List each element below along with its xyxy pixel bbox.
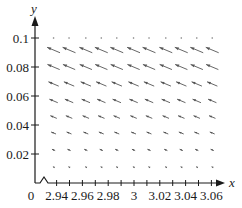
field-arrowhead — [160, 64, 164, 67]
x-tick-label: 2.98 — [97, 188, 120, 203]
field-arrowhead — [85, 167, 87, 168]
field-arrowhead — [211, 149, 213, 151]
field-arrowhead — [63, 47, 67, 50]
axes: x y 0 — [28, 1, 235, 203]
field-arrowhead — [129, 99, 133, 101]
field-arrowhead — [147, 132, 150, 134]
origin-label: 0 — [28, 188, 35, 203]
field-arrowhead — [208, 99, 212, 101]
x-axis-label: x — [228, 175, 235, 190]
field-arrowhead — [84, 149, 86, 151]
x-axis — [35, 177, 218, 183]
field-arrowhead — [80, 64, 84, 67]
field-arrowhead — [79, 47, 83, 50]
field-arrowhead — [83, 132, 86, 134]
y-axis-arrowhead — [32, 16, 39, 26]
field-arrowhead — [67, 132, 70, 134]
x-axis-arrowhead — [216, 180, 225, 187]
field-arrowhead — [147, 149, 149, 151]
field-point — [196, 37, 198, 39]
field-arrowhead — [67, 149, 69, 151]
field-arrowhead — [110, 47, 114, 50]
field-arrowhead — [98, 116, 101, 118]
field-arrowhead — [47, 47, 51, 50]
y-tick-label: 0.08 — [6, 60, 29, 75]
field-arrowhead — [143, 64, 147, 67]
field-arrowhead — [101, 167, 103, 168]
field-arrowhead — [132, 149, 134, 151]
field-arrowhead — [49, 99, 53, 101]
field-point — [116, 37, 118, 39]
field-arrowhead — [130, 116, 133, 118]
field-arrowhead — [47, 64, 51, 67]
field-arrowhead — [95, 47, 99, 50]
field-point — [53, 37, 55, 39]
field-arrowhead — [163, 116, 166, 118]
field-arrowhead — [145, 99, 149, 101]
field-point — [180, 37, 182, 39]
field-arrowhead — [176, 82, 180, 85]
field-point — [148, 37, 150, 39]
direction-field — [47, 37, 219, 168]
field-arrowhead — [195, 149, 197, 151]
field-arrowhead — [52, 149, 54, 151]
y-tick-label: 0.04 — [6, 118, 29, 133]
field-arrowhead — [206, 47, 210, 50]
field-arrowhead — [97, 99, 101, 101]
field-arrowhead — [133, 167, 135, 168]
field-arrowhead — [148, 167, 150, 168]
field-arrowhead — [51, 132, 54, 134]
field-arrowhead — [114, 116, 117, 118]
field-arrowhead — [96, 82, 100, 85]
field-arrowhead — [64, 82, 68, 85]
x-tick-label: 2.94 — [45, 188, 68, 203]
field-arrowhead — [131, 132, 134, 134]
field-arrowhead — [128, 82, 132, 85]
field-arrowhead — [178, 116, 181, 118]
field-arrowhead — [192, 82, 196, 85]
field-arrowhead — [48, 82, 52, 85]
field-arrowhead — [66, 116, 69, 118]
y-tick-label: 0.02 — [6, 147, 29, 162]
field-arrowhead — [81, 82, 85, 85]
field-arrowhead — [144, 82, 148, 85]
field-arrowhead — [95, 64, 99, 67]
field-arrowhead — [65, 99, 69, 101]
field-arrowhead — [127, 47, 131, 50]
field-arrowhead — [179, 132, 182, 134]
field-arrowhead — [116, 167, 118, 168]
field-point — [133, 37, 135, 39]
field-arrowhead — [210, 132, 213, 134]
x-tick-label: 3.04 — [174, 188, 197, 203]
x-tick-label: 3 — [131, 188, 138, 203]
field-arrowhead — [175, 64, 179, 67]
field-arrowhead — [165, 167, 167, 168]
y-tick-label: 0.06 — [6, 89, 29, 104]
field-arrowhead — [63, 64, 67, 67]
field-point — [68, 37, 70, 39]
field-arrowhead — [99, 132, 102, 134]
field-point — [211, 37, 213, 39]
x-tick-label: 3.02 — [148, 188, 171, 203]
field-arrowhead — [161, 82, 165, 85]
field-arrowhead — [209, 116, 212, 118]
field-arrowhead — [177, 99, 181, 101]
field-arrowhead — [115, 149, 117, 151]
field-arrowhead — [53, 167, 55, 168]
x-tick-label: 2.96 — [71, 188, 94, 203]
field-arrowhead — [100, 149, 102, 151]
field-arrowhead — [181, 167, 183, 168]
field-arrowhead — [146, 116, 149, 118]
y-ticks: 0.020.040.060.080.1 — [6, 31, 39, 162]
field-arrowhead — [193, 99, 197, 101]
field-arrowhead — [190, 47, 194, 50]
field-arrowhead — [207, 82, 211, 85]
field-arrowhead — [68, 167, 70, 168]
field-arrowhead — [162, 99, 166, 101]
field-arrowhead — [113, 99, 117, 101]
field-arrowhead — [194, 116, 197, 118]
field-arrowhead — [175, 47, 179, 50]
x-tick-label: 3.06 — [200, 188, 223, 203]
field-arrowhead — [206, 64, 210, 67]
field-arrowhead — [191, 64, 195, 67]
